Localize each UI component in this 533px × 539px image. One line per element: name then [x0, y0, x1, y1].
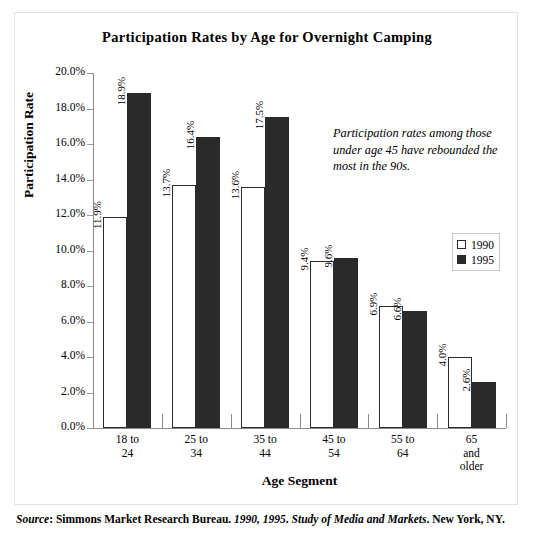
figure-frame: Participation Rates by Age for Overnight…: [14, 12, 518, 505]
source-publication: Study of Media and Markets: [292, 513, 427, 525]
category-label-line: 54: [300, 447, 369, 461]
x-axis-title: Age Segment: [93, 473, 506, 489]
y-tick-mark: [87, 73, 93, 74]
y-tick-mark: [87, 428, 93, 429]
category-label-line: older: [437, 460, 506, 474]
y-tick-label: 14.0%: [39, 172, 85, 184]
chart-title: Participation Rates by Age for Overnight…: [15, 29, 519, 46]
category-label-line: 64: [368, 447, 437, 461]
y-tick-mark: [87, 286, 93, 287]
bar-value-text: 4.0%: [437, 344, 448, 367]
chart-annotation: Participation rates among those under ag…: [333, 125, 518, 175]
bar-value-label: 2.6%: [473, 368, 484, 391]
bar-value-label: 6.9%: [380, 292, 391, 315]
bar-value-text: 9.6%: [323, 244, 334, 267]
source-citation: Source: Simmons Market Research Bureau. …: [16, 513, 526, 525]
source-years: 1990, 1995: [234, 513, 286, 525]
y-tick-mark: [87, 180, 93, 181]
x-axis-separator: [437, 414, 438, 428]
bar-value-label: 6.6%: [404, 297, 415, 320]
bar-1990-55-to-64[interactable]: 6.9%: [379, 306, 403, 428]
source-colon: :: [49, 513, 56, 525]
bar-1990-25-to-34[interactable]: 13.7%: [172, 185, 196, 428]
legend-label: 1995: [471, 254, 494, 266]
bar-value-label: 18.9%: [128, 76, 139, 104]
legend-item-1990[interactable]: 1990: [457, 237, 494, 252]
bar-value-label: 13.7%: [173, 169, 184, 197]
category-label-line: and: [437, 447, 506, 461]
y-tick-label: 6.0%: [39, 314, 85, 326]
bar-value-text: 6.9%: [368, 292, 379, 315]
x-axis-line: [93, 428, 506, 429]
x-axis-separator: [368, 414, 369, 428]
y-tick-label: 18.0%: [39, 101, 85, 113]
legend-swatch-icon: [457, 240, 466, 249]
bar-value-text: 17.5%: [254, 101, 265, 129]
category-label-45-to-54: 45 to54: [300, 433, 369, 460]
bar-value-text: 2.6%: [461, 368, 472, 391]
legend-label: 1990: [471, 239, 494, 251]
category-label-line: 44: [231, 447, 300, 461]
bar-value-text: 18.9%: [116, 76, 127, 104]
bar-1995-18-to-24[interactable]: 18.9%: [127, 93, 151, 428]
y-tick-mark: [87, 109, 93, 110]
bar-1995-25-to-34[interactable]: 16.4%: [196, 137, 220, 428]
bar-value-label: 16.4%: [197, 121, 208, 149]
bar-value-text: 13.6%: [230, 170, 241, 198]
bar-value-label: 11.9%: [104, 201, 115, 229]
bar-1995-65-and-older[interactable]: 2.6%: [472, 382, 496, 428]
bar-value-label: 9.6%: [335, 244, 346, 267]
source-prefix: Source: [16, 513, 49, 525]
legend-item-1995[interactable]: 1995: [457, 252, 494, 267]
bar-1990-45-to-54[interactable]: 9.4%: [310, 261, 334, 428]
x-axis-separator: [162, 414, 163, 428]
bar-value-text: 13.7%: [161, 169, 172, 197]
y-tick-mark: [87, 357, 93, 358]
category-label-line: 55 to: [368, 433, 437, 447]
source-publisher: Simmons Market Research Bureau.: [56, 513, 234, 525]
bar-value-text: 11.9%: [92, 201, 103, 229]
bar-value-text: 9.4%: [299, 248, 310, 271]
y-tick-mark: [87, 251, 93, 252]
bar-1990-35-to-44[interactable]: 13.6%: [241, 187, 265, 428]
bar-1995-45-to-54[interactable]: 9.6%: [334, 258, 358, 428]
category-label-18-to-24: 18 to24: [93, 433, 162, 460]
y-tick-label: 20.0%: [39, 65, 85, 77]
bar-value-label: 17.5%: [266, 101, 277, 129]
y-tick-label: 8.0%: [39, 278, 85, 290]
y-tick-label: 2.0%: [39, 385, 85, 397]
y-tick-label: 0.0%: [39, 420, 85, 432]
source-location: New York, NY.: [432, 513, 505, 525]
bar-value-label: 4.0%: [449, 344, 460, 367]
x-axis-separator: [506, 414, 507, 428]
bar-1995-35-to-44[interactable]: 17.5%: [265, 117, 289, 428]
y-tick-label: 12.0%: [39, 207, 85, 219]
category-label-line: 65: [437, 433, 506, 447]
category-label-line: 18 to: [93, 433, 162, 447]
y-tick-mark: [87, 393, 93, 394]
category-label-line: 34: [162, 447, 231, 461]
bar-1995-55-to-64[interactable]: 6.6%: [403, 311, 427, 428]
x-axis-separator: [300, 414, 301, 428]
bar-value-text: 6.6%: [392, 297, 403, 320]
y-tick-label: 4.0%: [39, 349, 85, 361]
y-tick-label: 10.0%: [39, 243, 85, 255]
bar-value-text: 16.4%: [185, 121, 196, 149]
y-tick-mark: [87, 322, 93, 323]
y-axis-line: [93, 73, 94, 428]
category-label-25-to-34: 25 to34: [162, 433, 231, 460]
bar-1990-18-to-24[interactable]: 11.9%: [103, 217, 127, 428]
category-label-line: 45 to: [300, 433, 369, 447]
y-tick-label: 16.0%: [39, 136, 85, 148]
category-label-35-to-44: 35 to44: [231, 433, 300, 460]
x-axis-separator: [231, 414, 232, 428]
legend-swatch-icon: [457, 255, 466, 264]
bar-value-label: 13.6%: [242, 170, 253, 198]
chart-legend: 19901995: [452, 233, 500, 271]
category-label-line: 25 to: [162, 433, 231, 447]
y-axis-title: Participation Rate: [21, 92, 37, 198]
bar-value-label: 9.4%: [311, 248, 322, 271]
category-label-line: 24: [93, 447, 162, 461]
category-label-65-and-older: 65andolder: [437, 433, 506, 474]
category-label-55-to-64: 55 to64: [368, 433, 437, 460]
